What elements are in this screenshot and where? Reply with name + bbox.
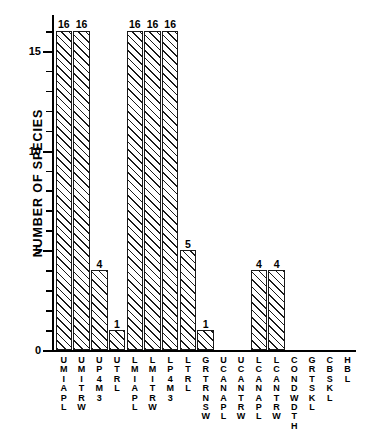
category-letter: L	[128, 403, 142, 412]
y-axis-line	[52, 15, 54, 352]
bar-value-label: 1	[114, 319, 120, 330]
category-letter: 3	[92, 394, 106, 403]
category-letter: 3	[163, 394, 177, 403]
y-axis-minor-tick	[46, 171, 52, 173]
x-axis-category-label: LCANAPL	[252, 356, 266, 422]
y-axis-minor-tick	[46, 330, 52, 332]
category-letter: L	[110, 384, 124, 393]
x-axis-line	[52, 350, 356, 352]
category-letter: L	[252, 412, 266, 421]
y-axis-minor-tick	[46, 31, 52, 33]
bar-value-label: 16	[164, 19, 176, 30]
y-axis-minor-tick	[46, 270, 52, 272]
y-axis-major-tick	[43, 350, 52, 352]
y-axis-tick-label: 10	[29, 145, 41, 157]
category-letter: L	[305, 403, 319, 412]
x-axis-category-label: CONDWDTH	[287, 356, 301, 431]
y-axis-minor-tick	[46, 230, 52, 232]
x-axis-category-label: UMITRW	[75, 356, 89, 412]
bar: 4	[251, 270, 267, 350]
x-axis-category-label: UCANTRW	[234, 356, 248, 422]
bar-value-label: 4	[96, 259, 102, 270]
bar-value-label: 4	[256, 259, 262, 270]
bar-value-label: 5	[185, 239, 191, 250]
y-axis-minor-tick	[46, 71, 52, 73]
x-axis-category-label: LTRL	[181, 356, 195, 394]
y-axis-minor-tick	[46, 131, 52, 133]
category-letter: L	[340, 375, 354, 384]
bar: 5	[180, 250, 196, 350]
y-axis-minor-tick	[46, 111, 52, 113]
bar-value-label: 16	[147, 19, 159, 30]
x-axis-category-label: GRTRNSW	[199, 356, 213, 422]
x-axis-category-label: LMIAPL	[128, 356, 142, 412]
category-letter: W	[145, 403, 159, 412]
bar: 16	[73, 31, 89, 350]
category-letter: L	[181, 384, 195, 393]
x-axis-category-label: UP4M3	[92, 356, 106, 403]
x-axis-category-label: LMITRW	[145, 356, 159, 412]
bar-chart-figure: NUMBER OF SPECIES 051015 161641161616514…	[0, 0, 369, 444]
bar-value-label: 1	[203, 319, 209, 330]
x-axis-category-label: CBSKL	[323, 356, 337, 403]
bar: 1	[197, 330, 213, 350]
category-letter: W	[270, 412, 284, 421]
x-axis-category-label: UMIAPL	[57, 356, 71, 412]
category-letter: H	[287, 422, 301, 431]
y-axis-tick-label: 15	[29, 45, 41, 57]
x-axis-category-label: HBL	[340, 356, 354, 384]
bar: 16	[127, 31, 143, 350]
category-letter: L	[216, 412, 230, 421]
category-letter: L	[57, 403, 71, 412]
bar-value-label: 16	[58, 19, 70, 30]
x-axis-category-label: LP4M3	[163, 356, 177, 403]
bar: 16	[144, 31, 160, 350]
bar: 4	[268, 270, 284, 350]
bar-value-label: 16	[129, 19, 141, 30]
y-axis-minor-tick	[46, 190, 52, 192]
y-axis-minor-tick	[46, 290, 52, 292]
bar: 1	[109, 330, 125, 350]
y-axis-tick-label: 5	[35, 244, 41, 256]
bar-value-label: 4	[274, 259, 280, 270]
category-letter: W	[75, 403, 89, 412]
x-axis-category-label: UCANAPL	[216, 356, 230, 422]
y-axis-major-tick	[43, 151, 52, 153]
x-axis-category-label: GRTSKL	[305, 356, 319, 412]
bar: 16	[162, 31, 178, 350]
category-letter: W	[234, 412, 248, 421]
y-axis-minor-tick	[46, 91, 52, 93]
category-letter: L	[323, 394, 337, 403]
category-letter: W	[199, 412, 213, 421]
plot-area: 051015 1616411616165144 UMIAPLUMITRWUP4M…	[52, 15, 358, 352]
y-axis-minor-tick	[46, 210, 52, 212]
y-axis-minor-tick	[46, 310, 52, 312]
bar: 4	[91, 270, 107, 350]
y-axis-major-tick	[43, 51, 52, 53]
y-axis-tick-label: 0	[35, 344, 41, 356]
x-axis-category-label: UTRL	[110, 356, 124, 394]
x-axis-category-label: LCANTRW	[270, 356, 284, 422]
bar-value-label: 16	[76, 19, 88, 30]
bar: 16	[56, 31, 72, 350]
y-axis-major-tick	[43, 250, 52, 252]
